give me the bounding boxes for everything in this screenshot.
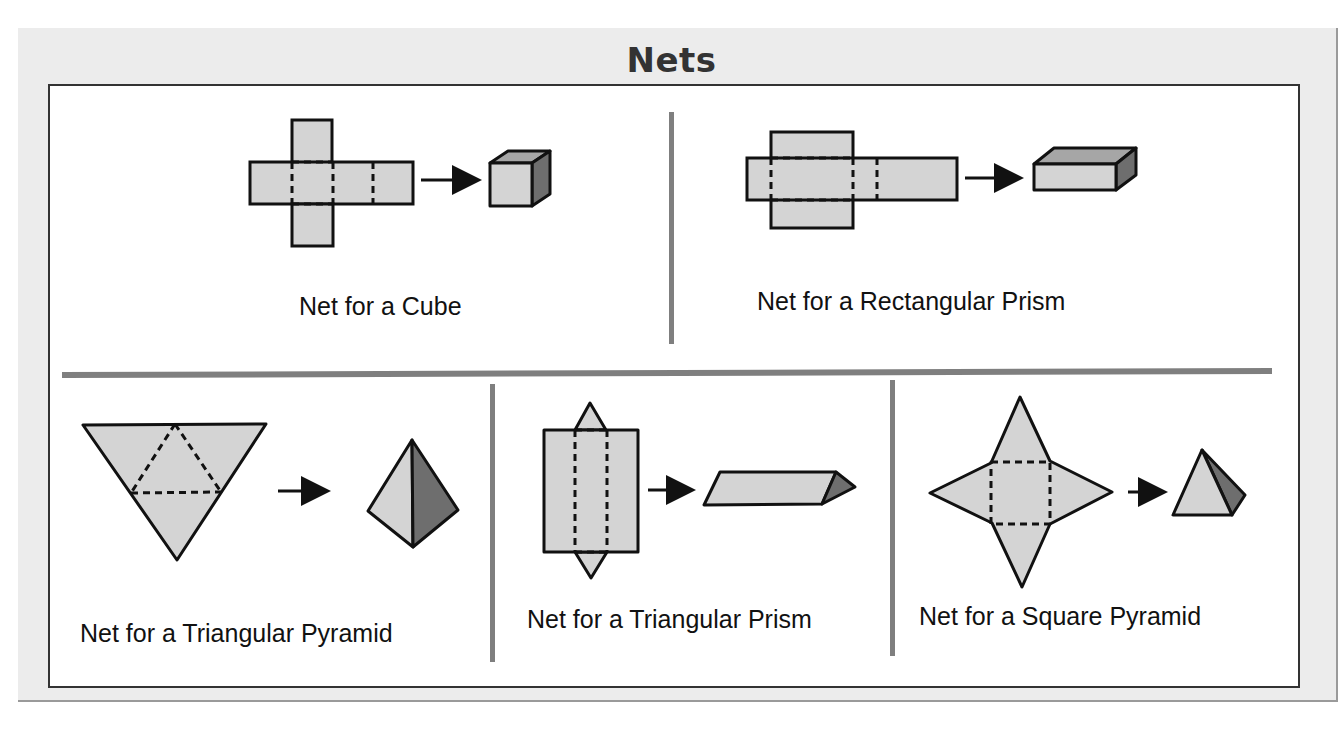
triangular-prism-solid-icon — [704, 472, 855, 505]
triangular-pyramid-solid-icon — [368, 440, 458, 547]
square-pyramid-solid-icon — [1173, 450, 1245, 515]
triangular-pyramid-net — [83, 424, 266, 560]
triangular-prism-net — [544, 403, 638, 578]
rectangular-prism-solid-icon — [1034, 148, 1136, 190]
cube-net — [250, 120, 413, 246]
label-rectangular-prism: Net for a Rectangular Prism — [757, 287, 1065, 316]
cube-solid-icon — [490, 151, 550, 206]
label-triangular-prism: Net for a Triangular Prism — [527, 605, 812, 634]
label-square-pyramid: Net for a Square Pyramid — [919, 602, 1201, 631]
square-pyramid-net — [930, 397, 1112, 587]
rectangular-prism-net — [747, 132, 957, 228]
label-cube: Net for a Cube — [299, 292, 462, 321]
label-triangular-pyramid: Net for a Triangular Pyramid — [80, 619, 393, 648]
